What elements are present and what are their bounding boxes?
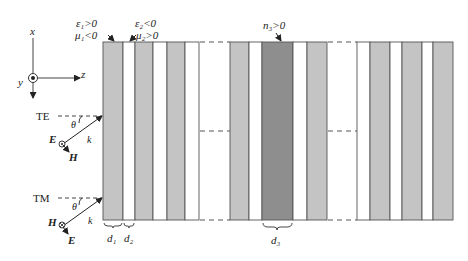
light-layer: [433, 42, 453, 220]
tm-incidence: TM θ k H E: [33, 192, 102, 246]
x-axis-label: x: [29, 25, 35, 37]
dark-layer: [262, 42, 293, 220]
layer2-mu-label: μ₂>0: [135, 29, 159, 41]
d2-brace: [124, 223, 134, 228]
white-layer: [293, 42, 307, 220]
d1-label: d₁: [107, 232, 117, 244]
te-e-dot-icon: [61, 143, 63, 145]
y-axis-label: y: [17, 76, 23, 88]
tm-e-field-arrow: [63, 227, 68, 234]
layer2-epsilon-label: ε₂<0: [135, 17, 157, 29]
defect-stack: [230, 42, 327, 220]
layer1-mu-label: μ₁<0: [74, 29, 98, 41]
light-layer: [103, 42, 123, 220]
thickness-annotations: [104, 223, 292, 230]
tm-angle-arc: [79, 198, 82, 205]
white-layer: [185, 42, 199, 220]
defect-pointer-arrow: [276, 33, 281, 41]
light-layer: [370, 42, 390, 220]
out-of-plane-y-dot-icon: [31, 76, 35, 80]
left-periodic-stack: [103, 42, 199, 220]
white-layer: [390, 42, 402, 220]
z-axis-label: z: [80, 68, 86, 80]
te-k-label: k: [87, 134, 92, 145]
right-periodic-stack: [357, 42, 453, 220]
white-layer: [422, 42, 433, 220]
layered-structure: [103, 42, 453, 220]
d3-brace: [263, 223, 292, 230]
tm-h-field-label: H: [47, 216, 57, 228]
te-h-field-label: H: [68, 151, 78, 163]
tm-mode-label: TM: [33, 192, 50, 204]
white-layer: [249, 42, 262, 220]
light-layer: [402, 42, 422, 220]
te-incidence: TE θ k E H: [36, 110, 102, 163]
white-layer: [153, 42, 167, 220]
light-layer: [307, 42, 327, 220]
tm-theta-label: θ: [72, 201, 77, 212]
te-theta-label: θ: [71, 119, 76, 130]
light-layer: [135, 42, 153, 220]
material-labels: ε₁>0 μ₁<0 ε₂<0 μ₂>0 n₃>0: [74, 17, 286, 41]
white-layer: [123, 42, 135, 220]
te-angle-arc: [79, 116, 82, 123]
tm-e-field-label: E: [67, 234, 75, 246]
light-layer: [167, 42, 185, 220]
d3-label: d₃: [271, 234, 281, 246]
te-mode-label: TE: [36, 110, 50, 122]
d2-label: d₂: [124, 232, 134, 244]
tm-k-label: k: [88, 215, 93, 226]
photonic-crystal-diagram: x z y ε₁>0 μ₁<0 ε₂<0 μ₂>0 n₃>0 TE θ k E: [0, 0, 468, 261]
layer1-epsilon-label: ε₁>0: [76, 17, 98, 29]
light-layer: [230, 42, 249, 220]
d1-brace: [104, 223, 122, 228]
te-e-field-label: E: [48, 133, 56, 145]
tm-k-vector-arrow: [63, 198, 102, 226]
te-k-vector-arrow: [63, 116, 102, 144]
layer1-pointer-arrow: [108, 35, 114, 41]
defect-index-label: n₃>0: [263, 19, 286, 31]
white-layer: [357, 42, 370, 220]
